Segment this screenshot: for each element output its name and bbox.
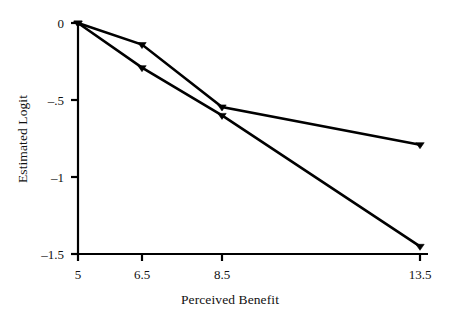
ytick-label-2: –1 <box>38 171 64 184</box>
ytick-label-1: –.5 <box>38 94 64 107</box>
y-axis-title: Estimated Logit <box>15 84 31 194</box>
ytick-label-3: –1.5 <box>28 248 64 261</box>
xtick-label-2: 8.5 <box>214 268 230 281</box>
series-line-upper-line <box>78 23 420 145</box>
chart-figure: 0 –.5 –1 –1.5 5 6.5 8.5 13.5 Estimated L… <box>0 0 456 317</box>
x-axis-title: Perceived Benefit <box>150 292 310 308</box>
data-point-marker <box>416 143 424 149</box>
xtick-label-3: 13.5 <box>409 268 432 281</box>
xtick-label-1: 6.5 <box>134 268 150 281</box>
xtick-label-0: 5 <box>75 268 82 281</box>
data-point-marker <box>416 244 424 250</box>
ytick-label-0: 0 <box>38 17 64 30</box>
chart-series-group <box>74 21 424 250</box>
chart-axes <box>71 23 428 261</box>
